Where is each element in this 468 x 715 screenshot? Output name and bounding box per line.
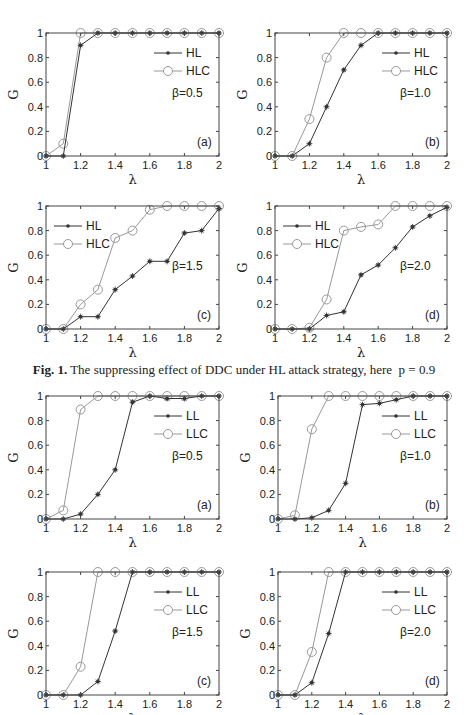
y-tick-label: 0.2 [28,125,43,137]
y-axis-label: G [235,262,250,272]
figure-caption: Fig. 1. The suppressing effect of DDC un… [0,362,468,378]
x-tick-label: 1 [43,159,49,171]
panel-label: (a) [197,498,212,512]
legend-entry: LL [414,585,428,599]
x-tick-label: 1.8 [405,159,420,171]
x-tick-label: 1 [272,332,278,344]
chart-svg: 11.21.41.61.8200.20.40.60.81λGβ=1.0(b)LL… [278,396,447,519]
panel-label: (d) [425,674,440,688]
y-tick-label: 0.6 [257,249,272,261]
x-tick-label: 1.2 [73,522,88,534]
legend: LLLLC [154,409,208,441]
legend-entry: HL [186,46,202,60]
legend: LLLLC [154,585,208,617]
x-tick-label: 2 [444,522,450,534]
legend: LLLLC [382,409,436,441]
legend-entry: LL [186,409,200,423]
x-tick-label: 1.6 [142,522,157,534]
beta-annotation: β=0.5 [172,449,203,463]
y-tick-label: 0.2 [257,125,272,137]
beta-annotation: β=1.5 [172,625,203,639]
x-tick-label: 1.8 [177,159,192,171]
y-tick-label: 1 [37,390,43,402]
x-axis-label: λ [128,535,136,550]
legend-entry: LLC [414,427,436,441]
legend-entry: LLC [414,603,436,617]
y-tick-label: 0.2 [28,298,43,310]
x-tick-label: 1.6 [142,332,157,344]
beta-annotation: β=2.0 [400,625,431,639]
x-axis-label: λ [128,345,136,360]
x-tick-label: 1 [43,698,49,710]
legend-entry: HLC [186,64,210,78]
x-tick-label: 1.8 [177,698,192,710]
x-tick-label: 1 [275,522,281,534]
x-tick-label: 2 [444,332,450,344]
legend-entry: HLC [414,64,438,78]
x-tick-label: 1.2 [304,698,319,710]
x-tick-label: 1.6 [372,522,387,534]
chart-svg: 11.21.41.61.8200.20.40.60.81λGβ=1.5(c)LL… [46,572,219,695]
x-tick-label: 1 [43,332,49,344]
y-tick-label: 1 [266,200,272,212]
y-tick-label: 0.2 [260,664,275,676]
y-tick-label: 0 [37,689,43,701]
x-tick-label: 1 [272,159,278,171]
x-tick-label: 1.4 [108,332,123,344]
panel-label: (c) [197,674,211,688]
y-tick-label: 1 [37,200,43,212]
x-tick-label: 1.4 [108,522,123,534]
y-tick-label: 1 [269,566,275,578]
x-tick-label: 1 [275,698,281,710]
x-tick-label: 1.6 [142,698,157,710]
x-tick-label: 1.4 [338,522,353,534]
beta-annotation: β=2.0 [400,259,431,273]
x-tick-label: 1.6 [371,332,386,344]
panel-label: (a) [197,135,212,149]
chart-svg: 11.21.41.61.8200.20.40.60.81λGβ=2.0(d)HL… [275,206,447,329]
panel-label: (b) [425,498,440,512]
x-axis-label: λ [358,711,366,715]
y-tick-label: 0.6 [28,76,43,88]
legend: HLHLC [54,219,110,251]
x-tick-label: 2 [216,698,222,710]
x-tick-label: 1.2 [73,698,88,710]
y-tick-label: 0 [37,323,43,335]
legend-entry: LLC [186,603,208,617]
beta-annotation: β=0.5 [172,86,203,100]
chart-panel-fig2b: 11.21.41.61.8200.20.40.60.81λGβ=1.0(b)LL… [278,396,447,519]
chart-panel-fig1a: 11.21.41.61.8200.20.40.60.81λGβ=0.5(a)HL… [46,33,219,156]
x-tick-label: 1.8 [406,522,421,534]
panel-label: (d) [425,308,440,322]
legend: LLLLC [382,585,436,617]
y-tick-label: 0.2 [260,488,275,500]
y-tick-label: 0.4 [260,640,275,652]
x-axis-label: λ [128,172,136,187]
y-tick-label: 1 [37,566,43,578]
legend-entry: HLC [315,237,339,251]
x-tick-label: 1.4 [108,159,123,171]
caption-param: p = 0.9 [399,362,436,377]
x-tick-label: 2 [444,698,450,710]
y-tick-label: 0 [266,150,272,162]
x-tick-label: 1.2 [302,332,317,344]
chart-svg: 11.21.41.61.8200.20.40.60.81λGβ=1.5(c)HL… [46,206,219,329]
chart-panel-fig2d: 11.21.41.61.8200.20.40.60.81λGβ=2.0(d)LL… [278,572,447,695]
y-tick-label: 0.6 [257,76,272,88]
y-axis-label: G [235,89,250,99]
legend-entry: LL [414,409,428,423]
y-tick-label: 0 [266,323,272,335]
x-tick-label: 1 [43,522,49,534]
y-tick-label: 0 [269,689,275,701]
beta-annotation: β=1.0 [400,449,431,463]
y-tick-label: 1 [37,27,43,39]
legend-entry: LLC [186,427,208,441]
y-tick-label: 0.8 [260,415,275,427]
y-axis-label: G [6,262,21,272]
legend-entry: LL [186,585,200,599]
y-tick-label: 0.4 [28,274,43,286]
x-tick-label: 1.4 [336,159,351,171]
y-axis-label: G [6,452,21,462]
beta-annotation: β=1.0 [400,86,431,100]
y-axis-label: G [238,452,253,462]
